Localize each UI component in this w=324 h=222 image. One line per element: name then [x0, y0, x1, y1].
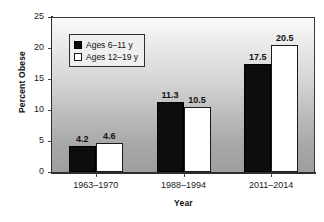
legend-entry: Ages 12–19 y	[74, 51, 138, 62]
y-axis-tick-label: 0	[39, 166, 44, 176]
bar-group: 17.520.5	[244, 17, 298, 172]
y-axis-tick-label: 15	[34, 73, 44, 83]
x-axis-tick-label: 1963–1970	[56, 180, 136, 190]
bar	[244, 64, 271, 173]
chart-legend: Ages 6–11 yAges 12–19 y	[69, 34, 145, 67]
x-axis-tick-mark	[184, 173, 185, 177]
x-axis-tick-mark	[271, 173, 272, 177]
bar-chart-figure: Percent Obese 0510152025 4.24.611.310.51…	[0, 0, 324, 222]
y-axis: 0510152025	[0, 17, 52, 172]
bar-value-label: 10.5	[177, 95, 217, 105]
y-axis-tick-label: 20	[34, 42, 44, 52]
legend-label: Ages 6–11 y	[86, 40, 133, 50]
x-axis: 1963–19701988–19942011–2014	[52, 173, 315, 195]
legend-swatch-icon	[74, 53, 82, 61]
bar-value-label: 20.5	[265, 33, 305, 43]
y-axis-tick-label: 10	[34, 104, 44, 114]
bar	[157, 102, 184, 172]
bar	[69, 146, 96, 172]
legend-swatch-icon	[74, 41, 82, 49]
x-axis-tick-label: 1988–1994	[144, 180, 224, 190]
legend-label: Ages 12–19 y	[86, 52, 138, 62]
bar	[96, 143, 123, 172]
bar	[184, 107, 211, 172]
bar-group: 11.310.5	[157, 17, 211, 172]
x-axis-tick-label: 2011–2014	[231, 180, 311, 190]
x-axis-tick-mark	[96, 173, 97, 177]
bar-value-label: 4.6	[89, 131, 129, 141]
y-axis-tick-label: 5	[39, 135, 44, 145]
legend-entry: Ages 6–11 y	[74, 39, 138, 50]
bar	[271, 45, 298, 172]
x-axis-title: Year	[52, 198, 315, 208]
y-axis-tick-label: 25	[34, 11, 44, 21]
